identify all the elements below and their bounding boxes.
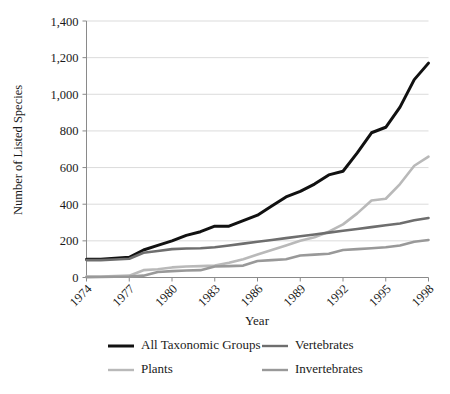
- y-tick-label: 600: [60, 161, 79, 175]
- x-tick-label: 1998: [409, 282, 437, 310]
- legend-label: Invertebrates: [295, 361, 363, 376]
- y-tick-label: 1,200: [50, 51, 78, 65]
- x-tick-label: 1983: [195, 282, 223, 310]
- x-tick-label: 1989: [281, 282, 309, 310]
- legend-label: Plants: [141, 361, 173, 376]
- legend-label: All Taxonomic Groups: [141, 337, 260, 352]
- series-line-all-taxonomic-groups: [87, 63, 429, 259]
- y-axis-title: Number of Listed Species: [11, 85, 25, 215]
- x-tick-label: 1974: [67, 281, 95, 309]
- x-axis-ticks: 197419771980198319861989199219951998: [67, 278, 437, 310]
- x-tick-label: 1986: [238, 282, 266, 310]
- y-axis-ticks: 02004006008001,0001,2001,400: [50, 15, 86, 286]
- line-chart: 02004006008001,0001,2001,400 19741977198…: [0, 0, 450, 394]
- legend-label: Vertebrates: [295, 337, 353, 352]
- y-tick-label: 1,000: [50, 88, 78, 102]
- chart-figure: 02004006008001,0001,2001,400 19741977198…: [0, 0, 450, 394]
- x-tick-label: 1980: [153, 282, 181, 310]
- x-tick-label: 1992: [324, 282, 352, 310]
- y-tick-label: 800: [60, 124, 79, 138]
- x-tick-label: 1977: [110, 282, 138, 310]
- y-tick-label: 400: [60, 198, 79, 212]
- y-tick-label: 200: [60, 234, 79, 248]
- y-tick-label: 0: [72, 271, 78, 285]
- x-axis-title: Year: [245, 313, 270, 328]
- data-series: [87, 63, 429, 277]
- x-tick-label: 1995: [366, 282, 394, 310]
- y-tick-label: 1,400: [50, 15, 78, 29]
- chart-legend: All Taxonomic GroupsVertebratesPlantsInv…: [108, 337, 363, 376]
